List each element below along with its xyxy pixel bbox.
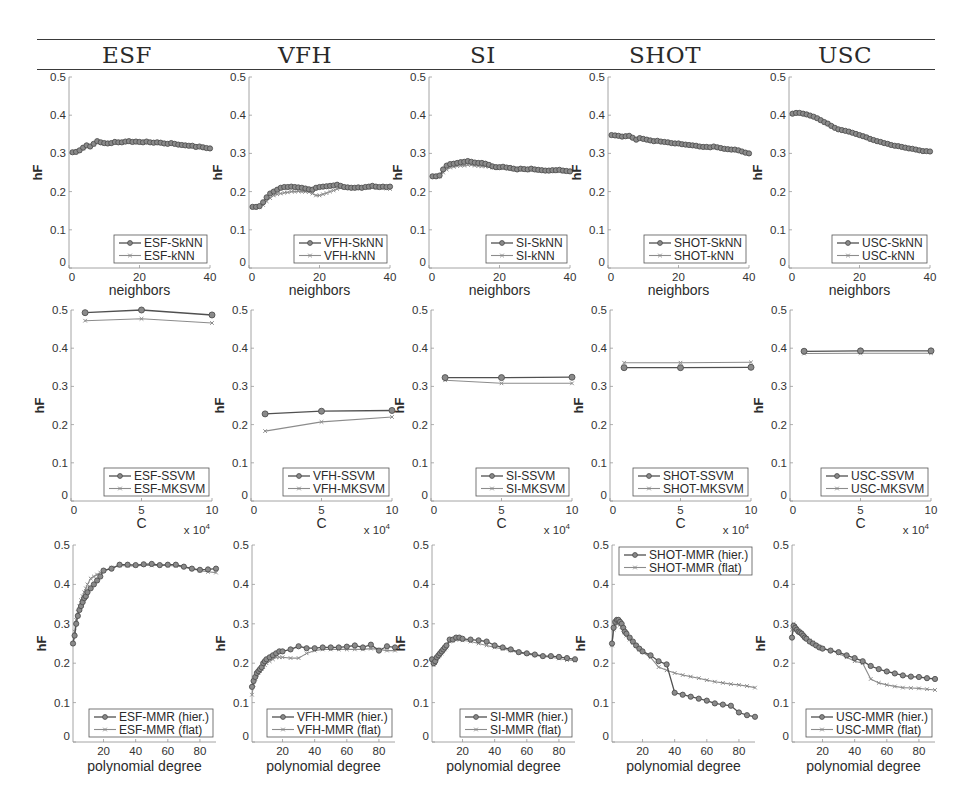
x-axis-label: polynomial degree: [626, 758, 741, 774]
series-shot-mksvm: [622, 361, 753, 365]
y-tick-label: 0: [60, 256, 66, 268]
series-esf-mmr-flat: [71, 563, 218, 645]
x-tick-label: 0: [610, 504, 616, 516]
circle-marker: [328, 645, 333, 650]
y-tick-label: 0.3: [770, 147, 786, 159]
circle-marker: [820, 715, 825, 720]
legend: USC-SkNNUSC-kNN: [832, 235, 927, 263]
x-multiplier-label: x 104: [544, 522, 571, 536]
circle-marker: [548, 654, 553, 659]
series-line: [792, 624, 935, 690]
legend: SHOT-MMR (hier.)SHOT-MMR (flat): [619, 547, 752, 575]
x-axis-label: neighbors: [289, 282, 351, 298]
series-usc-sknn: [790, 110, 933, 154]
circle-marker: [932, 676, 937, 681]
y-tick-label: 0.1: [50, 224, 66, 236]
x-tick-label: 20: [97, 745, 110, 757]
series-esf-ssvm: [82, 307, 215, 318]
x-tick-label: 40: [308, 745, 321, 757]
circle-marker: [249, 684, 254, 689]
y-tick-label: 0.4: [232, 342, 249, 354]
y-axis-label: hF: [390, 165, 405, 181]
y-tick-label: 0.3: [50, 147, 66, 159]
circle-marker: [387, 184, 392, 189]
y-tick-label: 0.3: [773, 618, 789, 630]
y-tick-label: 0.3: [771, 380, 787, 392]
x-tick-label: 10: [206, 504, 219, 516]
y-tick-label: 0.2: [412, 419, 428, 431]
x-tick-label: 40: [924, 271, 937, 283]
circle-marker: [117, 562, 122, 567]
circle-marker: [189, 566, 194, 571]
circle-marker: [728, 703, 733, 708]
y-tick-label: 0.4: [770, 109, 787, 121]
circle-marker: [319, 408, 325, 414]
legend: USC-MMR (hier.)USC-MMR (flat): [806, 709, 932, 737]
circle-marker: [789, 635, 794, 640]
y-tick-label: 0: [242, 489, 248, 501]
y-tick-label: 0: [240, 256, 246, 268]
circle-marker: [609, 641, 614, 646]
y-tick-label: 0.1: [773, 697, 789, 709]
legend: ESF-SSVMESF-MKSVM: [104, 468, 209, 496]
circle-marker: [572, 657, 577, 662]
legend: SI-SSVMSI-MKSVM: [476, 468, 569, 496]
chart-shot-neighbors: 00.10.20.30.40.502040neighborshFSHOT-SkN…: [569, 71, 755, 298]
series-line: [252, 645, 395, 687]
circle-marker: [748, 364, 754, 370]
series-line: [445, 380, 572, 383]
circle-marker: [74, 621, 79, 626]
circle-marker: [744, 713, 749, 718]
y-tick-label: 0.1: [413, 697, 429, 709]
circle-marker: [476, 638, 481, 643]
y-tick-label: 0.4: [771, 342, 788, 354]
x-tick-label: 80: [194, 745, 207, 757]
circle-marker: [508, 647, 513, 652]
y-tick-label: 0: [64, 730, 70, 742]
y-tick-label: 0.5: [770, 71, 786, 83]
x-axis-label: neighbors: [829, 282, 891, 298]
series-si-mksvm: [443, 378, 574, 385]
circle-marker: [141, 562, 146, 567]
circle-marker: [858, 348, 864, 354]
circle-marker: [927, 149, 932, 154]
y-axis-label: hF: [573, 636, 588, 652]
y-tick-label: 0.5: [589, 71, 605, 83]
y-axis-label: hF: [753, 636, 768, 652]
legend: SI-MMR (hier.)SI-MMR (flat): [460, 709, 572, 737]
x-axis-label: polynomial degree: [87, 758, 202, 774]
y-tick-label: 0.4: [412, 342, 429, 354]
x-tick-label: 80: [913, 745, 926, 757]
circle-marker: [916, 674, 921, 679]
x-axis-label: polynomial degree: [446, 758, 561, 774]
y-tick-label: 0.1: [591, 457, 607, 469]
circle-marker: [633, 553, 638, 558]
y-tick-label: 0.2: [593, 657, 609, 669]
circle-marker: [876, 667, 881, 672]
y-axis-label: hF: [34, 636, 49, 652]
circle-marker: [924, 676, 929, 681]
circle-marker: [281, 715, 286, 720]
y-tick-label: 0.5: [230, 71, 246, 83]
legend: SHOT-SkNNSHOT-kNN: [644, 235, 746, 263]
x-tick-label: 0: [69, 271, 75, 283]
y-tick-label: 0.3: [410, 147, 426, 159]
circle-marker: [125, 562, 130, 567]
legend-entry-label: SI-MKSVM: [506, 482, 565, 496]
circle-marker: [444, 643, 449, 648]
y-tick-label: 0.5: [591, 304, 607, 316]
y-axis-label: hF: [210, 165, 225, 181]
y-tick-label: 0.2: [771, 419, 787, 431]
legend-entry-label: SI-MMR (flat): [490, 723, 561, 737]
y-tick-label: 0.4: [233, 578, 250, 590]
y-tick-label: 0.5: [50, 71, 66, 83]
x-tick-label: 0: [789, 271, 795, 283]
legend: ESF-MMR (hier.)ESF-MMR (flat): [89, 709, 213, 737]
circle-marker: [752, 714, 757, 719]
y-tick-label: 0.4: [773, 578, 790, 590]
circle-marker: [468, 637, 473, 642]
x-tick-label: 40: [743, 271, 756, 283]
x-multiplier-label: x 104: [903, 522, 930, 536]
legend: VFH-SSVMVFH-MKSVM: [283, 468, 389, 496]
x-marker: [92, 575, 96, 579]
